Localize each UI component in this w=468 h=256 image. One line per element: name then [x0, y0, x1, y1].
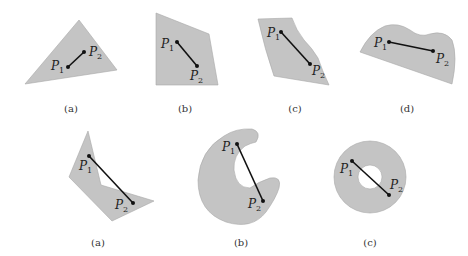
- nonconvex-polygon: [69, 131, 154, 221]
- point-p2: [387, 193, 391, 197]
- caption: (b): [234, 237, 248, 248]
- point-p2: [131, 201, 135, 205]
- figure-bottom-c: P1 P2 (c): [334, 141, 406, 248]
- point-p2: [195, 64, 199, 68]
- convexity-diagram: P1 P2 (a) P1 P2 (b) P1 P2 (c) P1 P2 (d): [0, 0, 468, 256]
- point-p1: [350, 159, 354, 163]
- caption: (a): [91, 237, 105, 248]
- caption: (c): [288, 103, 302, 114]
- point-p1: [175, 40, 179, 44]
- figure-bottom-b: P1 P2 (b): [198, 129, 280, 248]
- point-p1: [87, 154, 91, 158]
- svg-text:P2: P2: [311, 64, 325, 80]
- caption: (a): [64, 103, 78, 114]
- figure-top-a: P1 P2 (a): [25, 20, 117, 114]
- point-p1: [235, 142, 239, 146]
- figure-top-b: P1 P2 (b): [156, 13, 218, 114]
- convex-triangle: [25, 20, 117, 84]
- figure-top-c: P1 P2 (c): [258, 18, 329, 114]
- caption: (b): [178, 103, 192, 114]
- point-p1: [66, 65, 70, 69]
- point-p1: [387, 40, 391, 44]
- caption: (c): [363, 237, 377, 248]
- point-p2: [261, 199, 265, 203]
- figure-top-d: P1 P2 (d): [360, 25, 455, 114]
- figure-bottom-a: P1 P2 (a): [69, 131, 154, 248]
- caption: (d): [400, 103, 414, 114]
- point-p2: [431, 49, 435, 53]
- point-p2: [82, 50, 86, 54]
